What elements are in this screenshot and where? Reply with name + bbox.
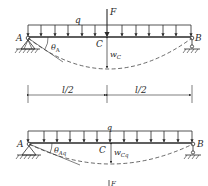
label-c-top: C: [96, 39, 103, 49]
label-b-bottom: B: [196, 139, 204, 149]
label-c-bottom: C: [99, 145, 106, 155]
label-a-top: A: [15, 33, 23, 43]
label-theta-a: θA: [51, 43, 61, 53]
label-q-bottom: q: [107, 123, 112, 132]
label-f-next: F: [110, 180, 117, 186]
label-q-top: q: [75, 15, 81, 25]
bottom-beam-group: [16, 131, 201, 165]
distributed-load-arrows-bottom: [28, 131, 192, 142]
span-dimension-labels: l/2 l/2: [62, 85, 147, 95]
top-beam-labels: q F A B C θA wC: [15, 7, 202, 60]
span-dimension: [28, 85, 192, 103]
label-half-span-right: l/2: [135, 85, 147, 95]
beam-diagram: q F A B C θA wC l/2 l/2: [0, 0, 208, 186]
rotation-arc-a: [45, 37, 48, 49]
label-wc: wC: [110, 50, 122, 60]
top-beam-group: [15, 9, 200, 69]
rotation-arc-a-bottom: [50, 143, 52, 153]
label-theta-aq: θAq: [54, 146, 67, 157]
next-figure-partial: F: [109, 180, 117, 186]
label-half-span-left: l/2: [62, 85, 74, 95]
label-b-top: B: [194, 33, 202, 43]
distributed-load-arrows: [28, 25, 191, 36]
label-f-top: F: [109, 7, 117, 17]
label-wcq: wCq: [114, 148, 129, 159]
label-a-bottom: A: [16, 139, 24, 149]
